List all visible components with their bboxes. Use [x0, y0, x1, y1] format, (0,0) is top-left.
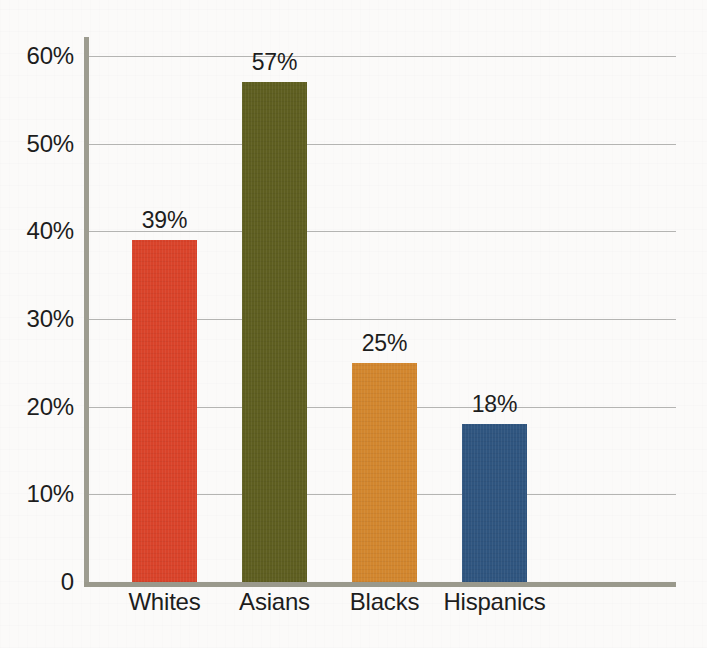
- bar-blacks: [352, 363, 417, 582]
- bar-value-label-hispanics: 18%: [435, 393, 555, 416]
- bar-hispanics: [462, 424, 527, 582]
- y-tick-label-40: 40%: [0, 219, 74, 243]
- gridline-60: [89, 56, 676, 57]
- y-tick-label-50: 50%: [0, 132, 74, 156]
- bar-texture: [352, 363, 417, 582]
- bar-value-label-asians: 57%: [215, 51, 335, 74]
- y-tick-label-10: 10%: [0, 482, 74, 506]
- bar-texture: [462, 424, 527, 582]
- x-axis-line: [84, 582, 676, 587]
- gridline-50: [89, 144, 676, 145]
- bar-whites: [132, 240, 197, 582]
- bar-asians: [242, 82, 307, 582]
- plot-area: [84, 37, 676, 585]
- y-tick-label-0: 0: [0, 570, 74, 594]
- y-tick-label-20: 20%: [0, 395, 74, 419]
- y-tick-label-60: 60%: [0, 44, 74, 68]
- bar-texture: [132, 240, 197, 582]
- x-label-hispanics: Hispanics: [415, 588, 575, 616]
- y-tick-label-30: 30%: [0, 307, 74, 331]
- bar-chart-figure: 010%20%30%40%50%60% 39%57%25%18% WhitesA…: [0, 0, 707, 648]
- y-axis-line: [84, 37, 89, 585]
- bar-value-label-blacks: 25%: [325, 332, 445, 355]
- bar-texture: [242, 82, 307, 582]
- bar-value-label-whites: 39%: [105, 209, 225, 232]
